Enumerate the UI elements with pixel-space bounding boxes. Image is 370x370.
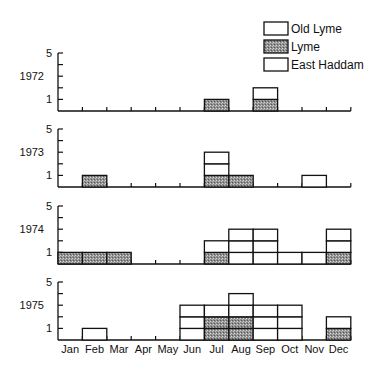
bar-cell-lyme (82, 252, 106, 264)
panel-year-label: 1972 (20, 70, 44, 82)
y-tick-label: 1 (46, 246, 52, 258)
bar-cell-white (278, 252, 302, 264)
y-tick-label: 1 (46, 93, 52, 105)
bar-cell-lyme (326, 252, 350, 264)
bar-cell-white (253, 88, 277, 100)
month-label: Sep (256, 343, 276, 355)
month-label: Dec (329, 343, 349, 355)
panel-1972: 511972 (20, 47, 351, 111)
bar-cell-lyme (229, 175, 253, 187)
bar-cell-lyme (58, 252, 82, 264)
y-tick-label: 5 (46, 123, 52, 135)
legend-item-old-lyme: Old Lyme (264, 22, 342, 36)
bar-cell-white (278, 328, 302, 340)
bar-cell-white (326, 241, 350, 253)
bar-cell-lyme (82, 175, 106, 187)
bar-cell-white (326, 317, 350, 329)
month-label: Mar (110, 343, 129, 355)
bar-cell-white (229, 241, 253, 253)
bar-cell-white (302, 175, 326, 187)
bar-cell-white (229, 305, 253, 317)
year-panels: 511972511973511974511975 (20, 47, 351, 340)
bar-cell-white (180, 305, 204, 317)
bar-cell-white (253, 305, 277, 317)
bar-cell-lyme (326, 328, 350, 340)
y-tick-label: 5 (46, 276, 52, 288)
x-axis-month-labels: JanFebMarAprMayJunJulAugSepOctNovDec (61, 343, 349, 355)
month-label: Feb (85, 343, 104, 355)
month-label: Nov (304, 343, 324, 355)
panel-1973: 511973 (20, 123, 351, 187)
bar-cell-lyme (229, 328, 253, 340)
bar-cell-white (253, 241, 277, 253)
y-tick-label: 1 (46, 169, 52, 181)
bar-cell-white (326, 229, 350, 241)
month-label: Jul (210, 343, 224, 355)
panel-1974: 511974 (20, 200, 351, 264)
legend-item-east-haddam: East Haddam (264, 58, 364, 72)
month-label: May (157, 343, 178, 355)
bar-cell-lyme (204, 175, 228, 187)
bar-cell-white (204, 152, 228, 164)
month-label: Jun (183, 343, 201, 355)
lyme-cases-histogram: Old Lyme Lyme East Haddam 51197251197351… (0, 0, 370, 370)
bar-cell-white (253, 229, 277, 241)
bar-cell-white (253, 328, 277, 340)
month-label: Jan (61, 343, 79, 355)
bar-cell-white (253, 317, 277, 329)
legend-label: East Haddam (291, 58, 364, 72)
bar-cell-white (302, 252, 326, 264)
legend-item-lyme: Lyme (264, 40, 320, 54)
month-label: Aug (231, 343, 251, 355)
bar-cell-lyme (204, 99, 228, 111)
bar-cell-white (204, 305, 228, 317)
bar-cell-lyme (204, 317, 228, 329)
bar-cell-lyme (204, 252, 228, 264)
month-label: Oct (281, 343, 298, 355)
bar-cell-white (229, 252, 253, 264)
bar-cell-white (204, 164, 228, 176)
panel-1975: 511975 (20, 276, 351, 340)
bar-cell-lyme (253, 99, 277, 111)
y-tick-label: 1 (46, 322, 52, 334)
legend-label: Lyme (291, 40, 320, 54)
bar-cell-white (82, 328, 106, 340)
legend-label: Old Lyme (291, 22, 342, 36)
bar-cell-white (180, 328, 204, 340)
panel-year-label: 1974 (20, 223, 44, 235)
bar-cell-lyme (204, 328, 228, 340)
month-label: Apr (135, 343, 152, 355)
bar-cell-white (278, 317, 302, 329)
bar-cell-white (204, 241, 228, 253)
bar-cell-lyme (229, 317, 253, 329)
y-tick-label: 5 (46, 47, 52, 59)
bar-cell-lyme (107, 252, 131, 264)
bar-cell-white (229, 294, 253, 306)
bar-cell-white (253, 252, 277, 264)
y-tick-label: 5 (46, 200, 52, 212)
panel-year-label: 1973 (20, 146, 44, 158)
panel-year-label: 1975 (20, 299, 44, 311)
bar-cell-white (180, 317, 204, 329)
legend: Old Lyme Lyme East Haddam (264, 22, 364, 72)
bar-cell-white (278, 305, 302, 317)
bar-cell-white (229, 229, 253, 241)
